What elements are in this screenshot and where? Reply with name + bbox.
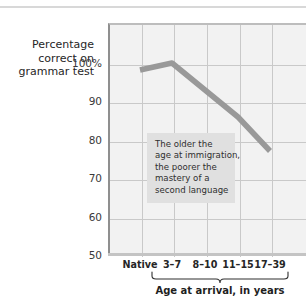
y-tick-label-50: 50 bbox=[60, 249, 102, 261]
y-tick-label-80: 80 bbox=[60, 134, 102, 146]
annotation-line-1: The older the bbox=[155, 139, 228, 150]
annotation-line-4: mastery of a bbox=[155, 173, 228, 184]
y-tick-label-70: 70 bbox=[60, 172, 102, 184]
annotation-line-3: the poorer the bbox=[155, 162, 228, 173]
x-axis-brace bbox=[150, 271, 290, 284]
x-axis-title: Age at arrival, in years bbox=[140, 285, 300, 296]
x-tick-label-17-39: 17–39 bbox=[250, 259, 290, 270]
top-divider-rule bbox=[0, 6, 306, 8]
y-axis-title-line-1: Percentage bbox=[4, 38, 94, 52]
chart-figure: Percentage correct on grammar test 100% … bbox=[0, 0, 306, 301]
annotation-callout: The older the age at immigration, the po… bbox=[147, 133, 235, 203]
brace-path bbox=[152, 272, 288, 283]
y-tick-label-100: 100% bbox=[56, 57, 102, 69]
y-tick-label-60: 60 bbox=[60, 211, 102, 223]
y-tick-label-90: 90 bbox=[60, 95, 102, 107]
annotation-line-5: second language bbox=[155, 185, 228, 196]
annotation-line-2: age at immigration, bbox=[155, 150, 228, 161]
